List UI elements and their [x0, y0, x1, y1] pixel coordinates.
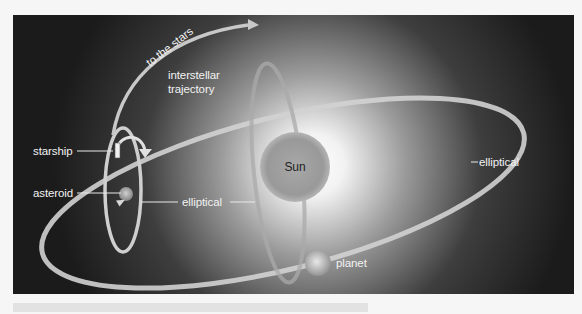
- elliptical-inner-label: elliptical: [182, 196, 222, 208]
- planet: [305, 250, 331, 276]
- starship: [115, 143, 120, 158]
- interstellar-label-line1: interstellar: [168, 69, 220, 81]
- asteroid: [119, 187, 133, 201]
- diagram-frame: Sun planet to the stars interstellar tra…: [13, 15, 574, 294]
- caption-bar: [13, 303, 368, 312]
- elliptical-outer-label: elliptical: [479, 156, 519, 168]
- sun-label: Sun: [284, 160, 305, 174]
- planet-label: planet: [336, 257, 368, 269]
- orbit-diagram: Sun planet to the stars interstellar tra…: [13, 15, 574, 294]
- starship-label: starship: [33, 145, 72, 157]
- interstellar-label-line2: trajectory: [168, 83, 215, 95]
- asteroid-label: asteroid: [33, 187, 73, 199]
